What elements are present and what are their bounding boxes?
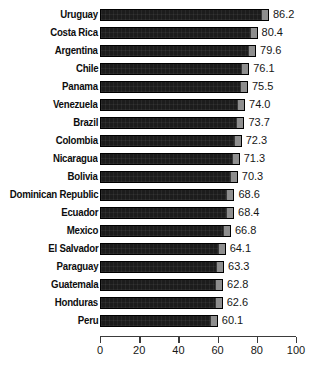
x-axis-tick bbox=[178, 337, 179, 343]
bar-category-label: Peru bbox=[77, 312, 98, 330]
bar-category-label: Panama bbox=[62, 78, 98, 96]
bar-value-label: 64.1 bbox=[230, 240, 251, 258]
bar-category-label: Dominican Republic bbox=[9, 186, 98, 204]
bar bbox=[100, 207, 234, 219]
bar-tip-segment bbox=[234, 136, 241, 146]
bar-value-label: 63.3 bbox=[228, 258, 249, 276]
bar-category-label: Paraguay bbox=[56, 258, 98, 276]
bar-tip-segment bbox=[226, 190, 233, 200]
x-axis-tick bbox=[257, 337, 258, 343]
bar-value-label: 72.3 bbox=[246, 132, 267, 150]
bar-tip-segment bbox=[241, 64, 248, 74]
bar-row: Venezuela74.0 bbox=[0, 96, 319, 114]
bar-value-label: 73.7 bbox=[248, 114, 269, 132]
bar-row: Mexico66.8 bbox=[0, 222, 319, 240]
x-axis-tick-label: 100 bbox=[287, 344, 305, 356]
bar-category-label: Nicaragua bbox=[53, 150, 98, 168]
bar bbox=[100, 189, 234, 201]
bar-value-label: 86.2 bbox=[273, 6, 294, 24]
bar-row: Costa Rica80.4 bbox=[0, 24, 319, 42]
bar bbox=[100, 171, 238, 183]
bar bbox=[100, 99, 245, 111]
bar bbox=[100, 27, 258, 39]
bar-container bbox=[100, 63, 249, 75]
bar bbox=[100, 261, 224, 273]
bar-row: Nicaragua71.3 bbox=[0, 150, 319, 168]
bar-row: Brazil73.7 bbox=[0, 114, 319, 132]
bar-category-label: Honduras bbox=[55, 294, 98, 312]
bar-container bbox=[100, 315, 218, 327]
bar-row: Uruguay86.2 bbox=[0, 6, 319, 24]
bar bbox=[100, 81, 248, 93]
bar-row: Guatemala62.8 bbox=[0, 276, 319, 294]
chart-plot-area: Uruguay86.2Costa Rica80.4Argentina79.6Ch… bbox=[0, 6, 319, 330]
bar bbox=[100, 63, 249, 75]
bar-container bbox=[100, 117, 244, 129]
bar bbox=[100, 315, 218, 327]
bar-container bbox=[100, 81, 248, 93]
bar-row: Paraguay63.3 bbox=[0, 258, 319, 276]
bar-tip-segment bbox=[210, 316, 217, 326]
bar bbox=[100, 153, 240, 165]
bar-tip-segment bbox=[226, 208, 233, 218]
bar-category-label: Mexico bbox=[67, 222, 98, 240]
bar-value-label: 76.1 bbox=[253, 60, 274, 78]
bar bbox=[100, 117, 244, 129]
bar-value-label: 70.3 bbox=[242, 168, 263, 186]
bar bbox=[100, 9, 269, 21]
x-axis-tick-label: 0 bbox=[97, 344, 103, 356]
bar-row: Ecuador68.4 bbox=[0, 204, 319, 222]
bar-tip-segment bbox=[236, 118, 243, 128]
bar bbox=[100, 135, 242, 147]
bar bbox=[100, 279, 223, 291]
bar-container bbox=[100, 189, 234, 201]
bar-row: Dominican Republic68.6 bbox=[0, 186, 319, 204]
bar-category-label: El Salvador bbox=[48, 240, 98, 258]
bar-value-label: 62.8 bbox=[227, 276, 248, 294]
bar-container bbox=[100, 99, 245, 111]
bar-value-label: 74.0 bbox=[249, 96, 270, 114]
bar bbox=[100, 243, 226, 255]
x-axis: 020406080100 bbox=[100, 336, 296, 342]
bar-tip-segment bbox=[218, 244, 225, 254]
bar-tip-segment bbox=[240, 82, 247, 92]
bar-value-label: 60.1 bbox=[222, 312, 243, 330]
x-axis-tick bbox=[139, 337, 140, 343]
bar-tip-segment bbox=[223, 226, 230, 236]
bar-tip-segment bbox=[250, 28, 257, 38]
bar bbox=[100, 45, 256, 57]
bar-tip-segment bbox=[248, 46, 255, 56]
bar-container bbox=[100, 171, 238, 183]
bar-row: Chile76.1 bbox=[0, 60, 319, 78]
bar-container bbox=[100, 153, 240, 165]
bar-row: Bolivia70.3 bbox=[0, 168, 319, 186]
bar-category-label: Venezuela bbox=[53, 96, 98, 114]
bar-container bbox=[100, 27, 258, 39]
bar-value-label: 75.5 bbox=[252, 78, 273, 96]
bar-container bbox=[100, 45, 256, 57]
bar-category-label: Uruguay bbox=[60, 6, 98, 24]
x-axis-tick-label: 80 bbox=[251, 344, 263, 356]
bar-row: El Salvador64.1 bbox=[0, 240, 319, 258]
bar-tip-segment bbox=[215, 298, 222, 308]
bar-container bbox=[100, 9, 269, 21]
bar-tip-segment bbox=[230, 172, 237, 182]
bar-tip-segment bbox=[232, 154, 239, 164]
bar-tip-segment bbox=[216, 262, 223, 272]
bar-category-label: Ecuador bbox=[61, 204, 98, 222]
bar-container bbox=[100, 207, 234, 219]
bar-row: Honduras62.6 bbox=[0, 294, 319, 312]
bar-tip-segment bbox=[261, 10, 268, 20]
bar-category-label: Colombia bbox=[56, 132, 98, 150]
x-axis-tick bbox=[100, 337, 101, 343]
bar-value-label: 62.6 bbox=[227, 294, 248, 312]
x-axis-tick-label: 20 bbox=[133, 344, 145, 356]
bar-value-label: 71.3 bbox=[244, 150, 265, 168]
bar-value-label: 79.6 bbox=[260, 42, 281, 60]
bar-value-label: 68.6 bbox=[238, 186, 259, 204]
bar-container bbox=[100, 261, 224, 273]
bar-row: Panama75.5 bbox=[0, 78, 319, 96]
bar-value-label: 80.4 bbox=[262, 24, 283, 42]
bar bbox=[100, 297, 223, 309]
x-axis-tick bbox=[296, 337, 297, 343]
